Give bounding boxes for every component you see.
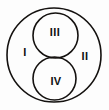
region-diagram: I II III IV (0, 0, 109, 110)
region-label-i: I (23, 46, 26, 58)
diagram-canvas: I II III IV (0, 0, 109, 110)
region-label-ii: II (82, 50, 89, 62)
region-label-iii: III (50, 26, 60, 38)
region-label-iv: IV (50, 75, 61, 87)
